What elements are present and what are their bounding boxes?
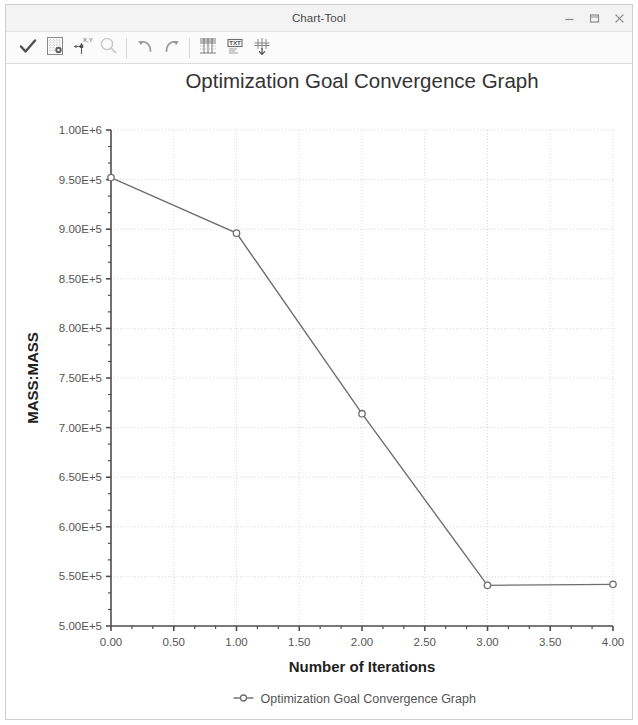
text-annotate-button[interactable]: TXT: [221, 35, 248, 61]
svg-text:8.00E+5: 8.00E+5: [59, 322, 102, 334]
table-icon: [197, 35, 219, 61]
data-point[interactable]: [610, 581, 616, 587]
undo-arrow-icon: [134, 35, 156, 61]
svg-text:Optimization Goal Convergence: Optimization Goal Convergence Graph: [261, 692, 476, 706]
window-controls: [562, 5, 626, 32]
x-axis-title: Number of Iterations: [289, 658, 436, 675]
chart-settings-button[interactable]: [41, 35, 68, 61]
data-point[interactable]: [233, 230, 239, 236]
chart-tool-window: Chart-Tool: [5, 4, 633, 720]
svg-text:TXT: TXT: [229, 39, 241, 46]
svg-text:2.00: 2.00: [351, 636, 373, 648]
svg-text:9.50E+5: 9.50E+5: [59, 174, 102, 186]
title-bar: Chart-Tool: [6, 5, 632, 32]
data-point[interactable]: [359, 411, 365, 417]
minimize-button[interactable]: [562, 12, 576, 26]
chart-canvas[interactable]: Optimization Goal Convergence Graph5.00E…: [6, 64, 632, 719]
svg-text:X,Y: X,Y: [83, 37, 93, 43]
apply-check-button[interactable]: [14, 35, 41, 61]
svg-text:8.50E+5: 8.50E+5: [59, 273, 102, 285]
svg-text:1.50: 1.50: [288, 636, 310, 648]
convergence-line-chart[interactable]: Optimization Goal Convergence Graph5.00E…: [6, 64, 632, 719]
redo-arrow-icon: [161, 35, 183, 61]
chart-legend[interactable]: Optimization Goal Convergence Graph: [234, 692, 476, 706]
svg-text:7.50E+5: 7.50E+5: [59, 372, 102, 384]
toolbar: X,Y: [6, 32, 632, 64]
toolbar-separator-2: [189, 38, 190, 58]
checkmark-icon: [18, 36, 38, 60]
svg-text:1.00: 1.00: [225, 636, 247, 648]
toolbar-separator-1: [126, 38, 127, 58]
svg-text:3.50: 3.50: [539, 636, 561, 648]
svg-text:0.00: 0.00: [100, 636, 122, 648]
plot-export-button[interactable]: [248, 35, 275, 61]
svg-text:9.00E+5: 9.00E+5: [59, 223, 102, 235]
chart-title: Optimization Goal Convergence Graph: [185, 69, 538, 92]
axis-settings-button[interactable]: X,Y: [68, 35, 95, 61]
zoom-button[interactable]: [95, 35, 122, 61]
svg-text:6.50E+5: 6.50E+5: [59, 471, 102, 483]
chart-gridlines: [111, 130, 613, 626]
svg-text:3.00: 3.00: [476, 636, 498, 648]
axis-xy-icon: X,Y: [71, 35, 93, 61]
maximize-button[interactable]: [587, 12, 601, 26]
svg-text:4.00: 4.00: [602, 636, 624, 648]
svg-text:1.00E+6: 1.00E+6: [59, 124, 102, 136]
svg-text:5.50E+5: 5.50E+5: [59, 570, 102, 582]
x-axis-ticks: 0.000.501.001.502.002.503.003.504.00: [100, 626, 624, 648]
data-point[interactable]: [484, 582, 490, 588]
grid-settings-icon: [44, 35, 66, 61]
undo-button[interactable]: [131, 35, 158, 61]
svg-text:2.50: 2.50: [414, 636, 436, 648]
table-view-button[interactable]: [194, 35, 221, 61]
data-point[interactable]: [108, 174, 114, 180]
window-title: Chart-Tool: [6, 12, 632, 24]
redo-button[interactable]: [158, 35, 185, 61]
text-box-icon: TXT: [224, 35, 246, 61]
y-axis-ticks: 5.00E+55.50E+56.00E+56.50E+57.00E+57.50E…: [59, 124, 111, 632]
magnifier-icon: [98, 35, 119, 60]
plot-export-icon: [251, 35, 273, 61]
y-axis-title: MASS:MASS: [24, 332, 41, 424]
close-button[interactable]: [612, 12, 626, 26]
svg-text:5.00E+5: 5.00E+5: [59, 620, 102, 632]
svg-text:0.50: 0.50: [163, 636, 185, 648]
svg-text:6.00E+5: 6.00E+5: [59, 521, 102, 533]
svg-text:7.00E+5: 7.00E+5: [59, 422, 102, 434]
